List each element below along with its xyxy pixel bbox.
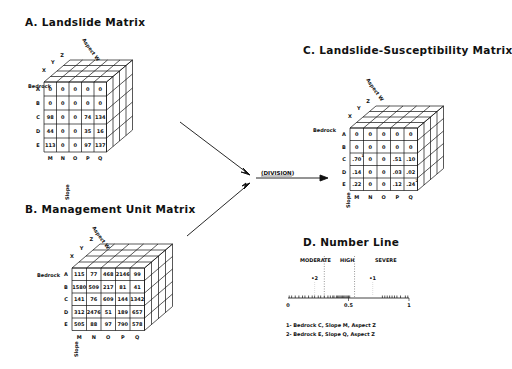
matrix-cell: 0 (396, 144, 400, 150)
matrix-cell: 468 (103, 271, 114, 277)
matrix-cell: 0 (61, 128, 65, 134)
matrix-cell: 1342 (130, 296, 144, 302)
matrix-cell: 509 (89, 284, 100, 290)
aspect-label: X (70, 253, 74, 259)
bedrock-label: C (36, 114, 40, 120)
matrix-cell: 98 (47, 114, 54, 120)
slope-label: P (395, 194, 399, 200)
matrix-cell: 0 (61, 86, 65, 92)
matrix-cell: 0 (99, 100, 103, 106)
aspect-label: Y (356, 105, 361, 111)
slope-label: O (106, 334, 110, 340)
arrow-a-to-division (180, 122, 250, 175)
slope-label: N (61, 155, 65, 161)
number-line-legend-item: 1- Bedrock C, Slope M, Aspect Z (286, 322, 376, 329)
slope-label: N (368, 194, 372, 200)
bedrock-label: B (342, 144, 346, 150)
bedrock-label: D (342, 169, 346, 175)
matrix-cell: 0 (61, 114, 65, 120)
matrix-cell: 51 (105, 309, 112, 315)
matrix-cell: .10 (406, 156, 415, 162)
matrix-cell: 0 (382, 181, 386, 187)
matrix-cell: 505 (74, 321, 85, 327)
matrix-cell: 0 (99, 86, 103, 92)
bedrock-label: B (64, 284, 68, 290)
bedrock-label: D (36, 128, 40, 134)
zone-label: SEVERE (375, 257, 397, 263)
aspect-label: Y (50, 59, 55, 65)
matrix-cell: 0 (49, 86, 53, 92)
matrix-cell: 0 (355, 144, 359, 150)
matrix-cell: 217 (103, 284, 114, 290)
aspect-label: X (42, 67, 46, 73)
matrix-cell: 97 (105, 321, 112, 327)
matrix-cell: .03 (393, 169, 402, 175)
matrix-cell: 134 (95, 114, 106, 120)
matrix-cell: 88 (90, 321, 97, 327)
matrix-cell: 144 (118, 296, 129, 302)
slope-label: Q (98, 155, 102, 161)
matrix-cell: 0 (74, 86, 78, 92)
number-line-legend-item: 2- Bedrock E, Slope Q, Aspect Z (286, 331, 375, 338)
matrix-cell: 0 (369, 131, 373, 137)
matrix-cell: .24 (406, 181, 415, 187)
number-line-marker: •1 (369, 275, 376, 281)
slope-label: O (382, 194, 386, 200)
slope-label: Q (409, 194, 413, 200)
tick-label: 1 (407, 302, 411, 308)
matrix-cell: 0 (355, 131, 359, 137)
matrix-c-front-face: 0000000000.7000.51.10.1400.03.02.2200.12… (342, 98, 419, 200)
matrix-cell: 0 (409, 131, 413, 137)
cell-marker: 2 (416, 179, 419, 183)
bedrock-label: A (64, 271, 68, 277)
matrix-cell: 0 (86, 100, 90, 106)
matrix-cell: 97 (84, 142, 91, 148)
tick-label: 0 (286, 302, 290, 308)
matrix-cell: 77 (90, 271, 97, 277)
matrix-cell: 609 (103, 296, 114, 302)
slope-label: O (73, 155, 77, 161)
bedrock-label: E (342, 181, 346, 187)
matrix-cell: 0 (74, 128, 78, 134)
matrix-cell: 2146 (116, 271, 130, 277)
matrix-cell: 137 (95, 142, 106, 148)
matrix-cell: .12 (393, 181, 402, 187)
bedrock-label: E (64, 321, 68, 327)
slope-label: P (121, 334, 125, 340)
aspect-label: X (348, 113, 352, 119)
slope-label: Q (135, 334, 139, 340)
matrix-cell: 0 (61, 142, 65, 148)
matrix-cell: 44 (47, 128, 54, 134)
bedrock-label: C (64, 296, 68, 302)
slope-label: P (86, 155, 90, 161)
bedrock-label: B (36, 100, 40, 106)
matrix-cell: 16 (97, 128, 104, 134)
matrix-cell: 0 (369, 144, 373, 150)
division-label: (DIVISION) (261, 170, 295, 176)
matrix-cell: 189 (118, 309, 129, 315)
cell-marker: 1 (362, 154, 365, 158)
matrix-cell: 790 (118, 321, 129, 327)
tick-label: 0.5 (344, 302, 353, 308)
slope-label: M (48, 155, 53, 161)
bedrock-label: D (64, 309, 68, 315)
matrix-cell: 0 (74, 114, 78, 120)
matrix-a-cube (44, 60, 133, 152)
bedrock-label: A (36, 86, 40, 92)
matrix-cell: 0 (369, 169, 373, 175)
matrix-cell: 0 (382, 169, 386, 175)
matrix-cell: 141 (74, 296, 85, 302)
zone-label: HIGH (340, 257, 354, 263)
matrix-cell: 76 (90, 296, 97, 302)
matrix-cell: 2476 (87, 309, 101, 315)
matrix-cell: .22 (352, 181, 361, 187)
matrix-cell: 0 (86, 86, 90, 92)
matrix-cell: 657 (132, 309, 143, 315)
matrix-b-front-face: 1157746821469915805092178141141766091441… (64, 236, 145, 339)
zone-label: MODERATE (300, 257, 332, 263)
matrix-cell: 0 (382, 144, 386, 150)
matrix-cell: 99 (134, 271, 141, 277)
aspect-label: Z (60, 52, 64, 58)
matrix-cell: 0 (382, 156, 386, 162)
